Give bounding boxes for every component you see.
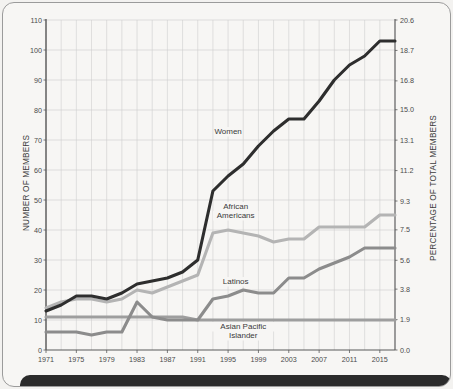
y2-tick-label: 11.2	[400, 166, 413, 175]
y2-axis-ticks: 0.01.93.85.67.59.311.213.115.016.818.720…	[395, 16, 414, 355]
y2-tick-label: 1.9	[400, 315, 410, 324]
y-tick-label: 100	[30, 46, 42, 55]
series-line-asian-pacific-islander	[46, 317, 395, 320]
y-tick-label: 20	[34, 286, 42, 295]
x-tick-label: 1979	[99, 355, 115, 364]
series-annotation: Americans	[217, 211, 255, 220]
y2-tick-label: 13.1	[400, 136, 414, 145]
x-tick-label: 1987	[159, 355, 175, 364]
series-annotation: Women	[214, 127, 241, 136]
series-line-african-americans	[46, 215, 395, 308]
y-tick-label: 10	[34, 316, 42, 325]
chart-page: 0102030405060708090100110 0.01.93.85.67.…	[0, 0, 453, 389]
x-tick-label: 2015	[372, 355, 388, 364]
series-line-women	[46, 41, 395, 311]
y-tick-label: 60	[34, 166, 42, 175]
y2-tick-label: 18.7	[400, 46, 414, 55]
y2-tick-label: 16.8	[400, 76, 414, 85]
y2-tick-label: 0.0	[400, 346, 410, 355]
series-annotation: Asian Pacific	[220, 322, 266, 331]
chart-card: 0102030405060708090100110 0.01.93.85.67.…	[2, 2, 451, 387]
line-chart: 0102030405060708090100110 0.01.93.85.67.…	[3, 3, 451, 387]
y2-tick-label: 5.6	[400, 256, 410, 265]
y-tick-label: 30	[34, 256, 42, 265]
series-annotation: African	[223, 202, 248, 211]
y-tick-label: 50	[34, 196, 42, 205]
data-series	[46, 41, 395, 335]
x-tick-label: 2011	[342, 355, 357, 364]
series-annotation: Latinos	[223, 277, 249, 286]
y2-tick-label: 3.8	[400, 285, 410, 294]
x-tick-label: 1995	[220, 355, 236, 364]
x-tick-label: 1975	[68, 355, 84, 364]
y-tick-label: 80	[34, 106, 42, 115]
x-tick-label: 2007	[311, 355, 327, 364]
y2-tick-label: 15.0	[400, 105, 414, 114]
y2-tick-label: 7.5	[400, 225, 410, 234]
y-tick-label: 0	[38, 346, 42, 355]
y2-axis-title: PERCENTAGE OF TOTAL MEMBERS	[429, 115, 438, 261]
bottom-bar	[20, 375, 451, 387]
x-tick-label: 1991	[190, 355, 206, 364]
y2-tick-label: 9.3	[400, 197, 410, 206]
x-tick-label: 1971	[38, 355, 54, 364]
y-axis-ticks: 0102030405060708090100110	[30, 16, 46, 355]
y-tick-label: 70	[34, 136, 42, 145]
series-annotation: Islander	[229, 331, 258, 340]
y-tick-label: 40	[34, 226, 42, 235]
y2-tick-label: 20.6	[400, 16, 414, 25]
x-axis-ticks: 1971197519791983198719911995199920032007…	[38, 350, 388, 364]
y-tick-label: 110	[31, 16, 42, 25]
x-tick-label: 1983	[129, 355, 145, 364]
y-tick-label: 90	[34, 76, 42, 85]
y-axis-title: NUMBER OF MEMBERS	[22, 135, 31, 232]
x-tick-label: 1999	[250, 355, 266, 364]
x-tick-label: 2003	[281, 355, 297, 364]
